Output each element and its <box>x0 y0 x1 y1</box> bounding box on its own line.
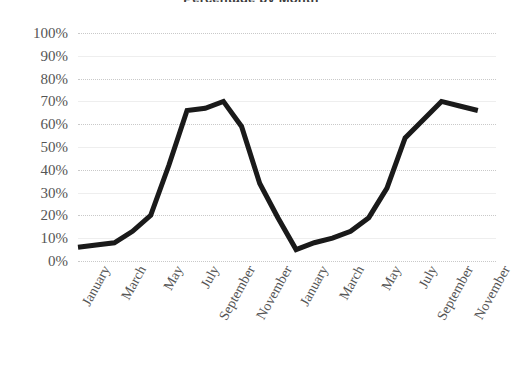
y-axis: 100%90%80%70%60%50%40%30%20%10%0% <box>0 24 72 270</box>
x-axis-tick-label: March <box>119 263 151 303</box>
x-axis-tick-label: March <box>337 263 369 303</box>
y-axis-tick-label: 50% <box>41 140 69 155</box>
y-axis-tick-label: 80% <box>41 71 69 86</box>
y-axis-tick-label: 30% <box>41 185 69 200</box>
y-axis-tick-label: 10% <box>41 231 69 246</box>
series-line-percentage <box>78 33 496 261</box>
x-axis-tick-label: May <box>160 263 186 293</box>
y-axis-tick-label: 90% <box>41 48 69 63</box>
x-axis-tick-label: January <box>79 263 114 309</box>
chart-title: Percentage by Month <box>0 0 502 2</box>
data-line <box>78 101 478 249</box>
x-axis: JanuaryMarchMayJulySeptemberNovemberJanu… <box>78 263 496 383</box>
x-axis-tick-label: November <box>253 263 296 322</box>
y-axis-tick-label: 70% <box>41 94 69 109</box>
x-axis-tick-label: May <box>378 263 404 293</box>
y-axis-tick-label: 0% <box>48 254 68 269</box>
x-axis-tick-label: January <box>297 263 332 309</box>
gridline <box>78 261 496 262</box>
plot-area <box>78 33 496 261</box>
y-axis-tick-label: 40% <box>41 162 69 177</box>
x-axis-tick-label: July <box>198 263 223 291</box>
y-axis-tick-label: 20% <box>41 208 69 223</box>
y-axis-tick-label: 100% <box>33 26 68 41</box>
y-axis-tick-label: 60% <box>41 117 69 132</box>
x-axis-tick-label: July <box>416 263 441 291</box>
x-axis-tick-label: November <box>471 263 514 322</box>
